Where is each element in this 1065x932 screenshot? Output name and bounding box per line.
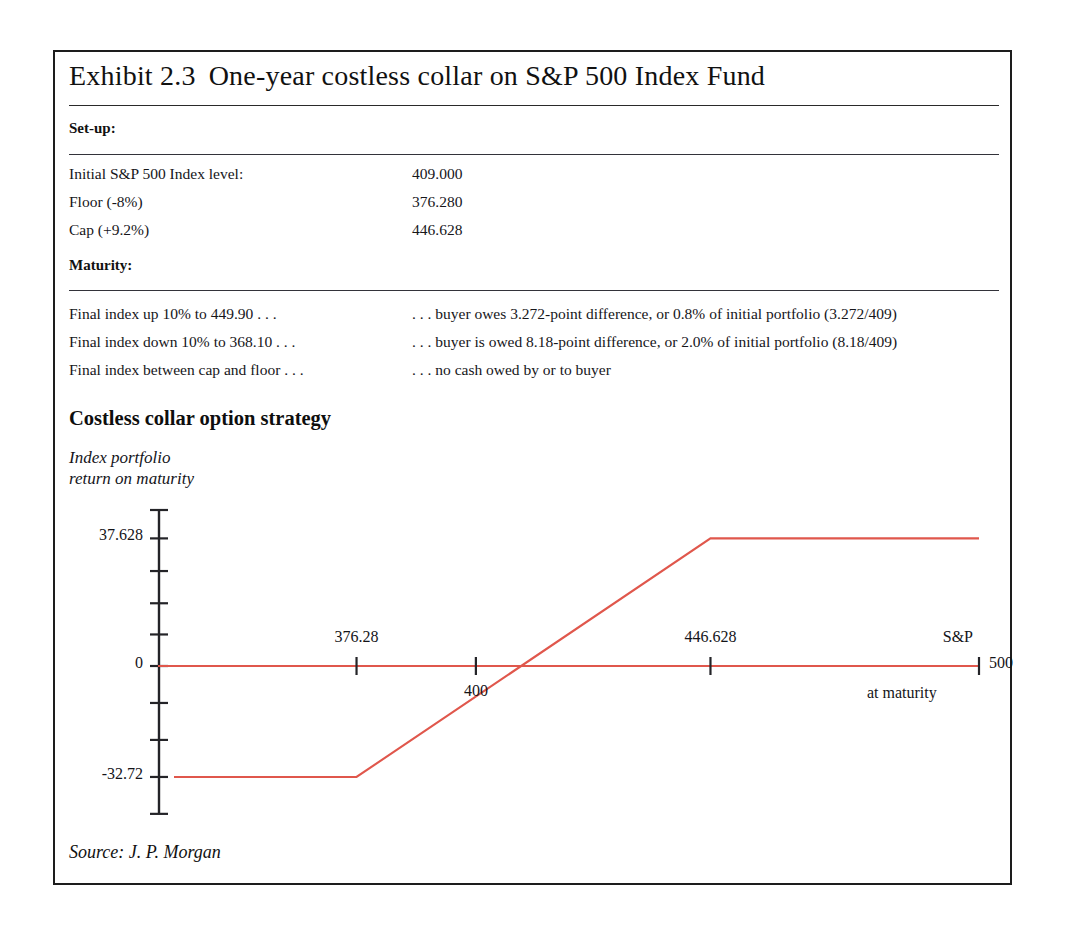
setup-header: Set-up: xyxy=(69,120,116,137)
table-row: Final index up 10% to 449.90 . . . . . .… xyxy=(69,305,999,330)
chart-y-axis-caption: Index portfolio return on maturity xyxy=(69,447,194,489)
payoff-chart: 37.6280-32.72376.28400446.628S&P500at ma… xyxy=(69,492,999,837)
exhibit-number: Exhibit 2.3 xyxy=(69,60,196,91)
exhibit-frame: Exhibit 2.3One-year costless collar on S… xyxy=(53,50,1012,885)
table-row: Floor (-8%) 376.280 xyxy=(69,193,999,218)
exhibit-title-text: One-year costless collar on S&P 500 Inde… xyxy=(209,60,765,91)
exhibit-title: Exhibit 2.3One-year costless collar on S… xyxy=(69,60,765,92)
exhibit-content: Exhibit 2.3One-year costless collar on S… xyxy=(69,52,999,883)
x-axis-title-line1: S&P xyxy=(829,628,973,646)
maturity-row-label: Final index up 10% to 449.90 . . . xyxy=(69,305,277,323)
maturity-row-label: Final index between cap and floor . . . xyxy=(69,361,304,379)
y-tick-label: 37.628 xyxy=(69,526,143,544)
source-note: Source: J. P. Morgan xyxy=(69,842,221,863)
payoff-line xyxy=(174,538,979,777)
rule-under-setup-header xyxy=(69,154,999,155)
x-axis xyxy=(158,657,979,675)
table-row: Cap (+9.2%) 446.628 xyxy=(69,221,999,246)
x-axis-title-line3: at maturity xyxy=(867,684,1065,702)
maturity-row-value: . . . no cash owed by or to buyer xyxy=(412,361,611,379)
y-tick-label: 0 xyxy=(69,654,143,672)
y-axis xyxy=(150,510,168,814)
maturity-row-value: . . . buyer is owed 8.18-point differenc… xyxy=(412,333,897,351)
setup-row-value: 409.000 xyxy=(412,165,462,183)
payoff-chart-svg xyxy=(69,492,999,837)
table-row: Initial S&P 500 Index level: 409.000 xyxy=(69,165,999,190)
setup-row-label: Floor (-8%) xyxy=(69,193,143,211)
rule-under-title xyxy=(69,105,999,106)
table-row: Final index between cap and floor . . . … xyxy=(69,361,999,386)
table-row: Final index down 10% to 368.10 . . . . .… xyxy=(69,333,999,358)
chart-title: Costless collar option strategy xyxy=(69,407,331,430)
maturity-header: Maturity: xyxy=(69,257,132,274)
maturity-row-label: Final index down 10% to 368.10 . . . xyxy=(69,333,295,351)
setup-row-value: 446.628 xyxy=(412,221,462,239)
setup-row-value: 376.280 xyxy=(412,193,462,211)
x-tick-label: 446.628 xyxy=(650,628,770,646)
x-tick-label: 376.28 xyxy=(297,628,417,646)
rule-under-maturity-header xyxy=(69,290,999,291)
x-axis-tick-label-500: 500 xyxy=(989,654,1013,672)
x-tick-label: 400 xyxy=(416,682,536,700)
setup-row-label: Cap (+9.2%) xyxy=(69,221,149,239)
maturity-row-value: . . . buyer owes 3.272-point difference,… xyxy=(412,305,897,323)
y-tick-label: -32.72 xyxy=(69,765,143,783)
setup-row-label: Initial S&P 500 Index level: xyxy=(69,165,243,183)
